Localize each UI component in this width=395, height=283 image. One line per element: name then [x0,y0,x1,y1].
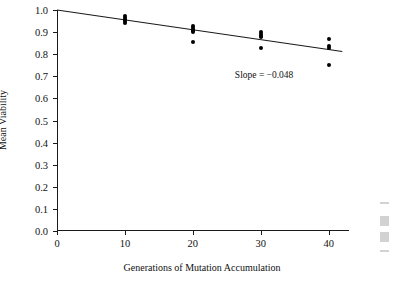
x-tick-label: 20 [188,238,199,249]
y-tick-label: 0.4 [35,137,48,148]
x-tick [125,231,126,235]
y-tick-label: 0.5 [35,115,48,126]
x-tick [193,231,194,235]
x-tick-label: 10 [120,238,131,249]
plot-area: 0.00.10.20.30.40.50.60.70.80.91.0 010203… [57,10,347,230]
data-point [327,46,331,50]
y-tick-label: 0.7 [35,71,48,82]
slope-annotation: Slope = −0.048 [235,70,293,80]
y-tick-label: 0.9 [35,27,48,38]
data-point [191,40,195,44]
x-axis-title: Generations of Mutation Accumulation [57,262,347,273]
x-tick-label: 30 [255,238,266,249]
x-tick [261,231,262,235]
y-tick-label: 0.6 [35,93,48,104]
viability-regression-figure: 0.00.10.20.30.40.50.60.70.80.91.0 010203… [0,0,395,283]
x-tick [329,231,330,235]
y-tick-label: 1.0 [35,5,48,16]
data-point [191,29,195,33]
y-tick-label: 0.0 [35,226,48,237]
x-tick-label: 0 [54,238,59,249]
x-tick-label: 40 [323,238,334,249]
y-tick-label: 0.1 [35,203,48,214]
y-axis-title: Mean Viability [0,90,8,150]
x-tick [57,231,58,235]
y-tick-label: 0.3 [35,159,48,170]
scan-artifact-marks [377,196,395,264]
y-tick-label: 0.2 [35,181,48,192]
regression-line [57,10,349,231]
y-tick-label: 0.8 [35,49,48,60]
data-point [327,37,331,41]
data-point [259,46,263,50]
data-point [123,21,127,25]
